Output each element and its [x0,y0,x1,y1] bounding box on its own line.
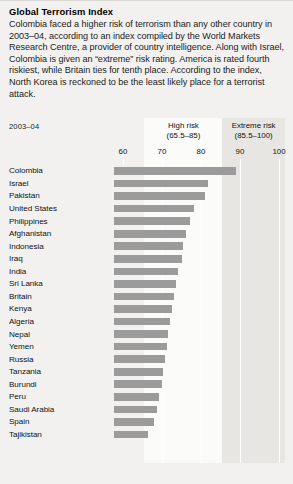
bar [114,230,186,238]
bar-row: Saudi Arabia [0,404,293,417]
bar-row: Indonesia [0,241,293,254]
bar-row: Yemen [0,342,293,355]
x-tick-mark-60 [123,159,124,164]
country-label: Spain [9,417,29,427]
country-label: Russia [9,355,33,365]
x-axis-tick-labels: 60708090100 [0,147,293,159]
bar-row: Colombia [0,166,293,179]
bar-row: Kenya [0,304,293,317]
country-label: Kenya [9,304,32,314]
country-label: Indonesia [9,242,44,252]
bar-row: Tajikistan [0,429,293,442]
country-label: Burundi [9,380,37,390]
bar-row: Burundi [0,379,293,392]
bar [114,293,174,301]
country-label: Algeria [9,317,34,327]
country-label: Pakistan [9,191,40,201]
bar-row: Iraq [0,254,293,267]
x-tick-label-60: 60 [119,147,128,156]
page-title: Global Terrorism Index [9,6,285,18]
country-label: Nepal [9,330,30,340]
bar [114,205,194,213]
bar [114,368,163,376]
bar [114,167,236,175]
bar-row: India [0,266,293,279]
bar-row: Algeria [0,317,293,330]
band-label-range: (85.5–100) [222,131,284,141]
bar-row: Philippines [0,216,293,229]
bar-row: Pakistan [0,191,293,204]
bar-row: Sri Lanka [0,279,293,292]
bar [114,406,157,414]
bar [114,255,182,263]
bar [114,192,205,200]
x-tick-label-90: 90 [236,147,245,156]
bar-row: Britain [0,291,293,304]
bar [114,242,183,250]
country-label: United States [9,204,57,214]
country-label: Afghanistan [9,229,51,239]
bar [114,393,159,401]
bar [114,305,172,313]
country-label: Saudi Arabia [9,405,54,415]
bar-rows: ColombiaIsraelPakistanUnited StatesPhili… [0,166,293,442]
country-label: Britain [9,292,32,302]
bar [114,280,176,288]
description-paragraph: Colombia faced a higher risk of terroris… [9,19,285,100]
chart-plot-area: High risk(65.5–85)Extreme risk(85.5–100)… [0,118,293,463]
x-tick-label-80: 80 [197,147,206,156]
bar-row: Nepal [0,329,293,342]
bar-row: Israel [0,179,293,192]
country-label: Israel [9,179,29,189]
bar-row: Peru [0,392,293,405]
x-tick-label-100: 100 [272,147,285,156]
bar-row: Afghanistan [0,229,293,242]
band-label-title: High risk [168,121,199,130]
bar [114,268,178,276]
country-label: Yemen [9,342,34,352]
band-label-extreme-risk: Extreme risk(85.5–100) [222,121,284,140]
band-label-high-risk: High risk(65.5–85) [144,121,222,140]
bar-row: Spain [0,417,293,430]
bar-row: Russia [0,354,293,367]
country-label: Sri Lanka [9,279,43,289]
band-label-title: Extreme risk [232,121,276,130]
bar [114,330,168,338]
country-label: Philippines [9,217,48,227]
country-label: India [9,267,26,277]
band-label-range: (65.5–85) [144,131,222,141]
country-label: Colombia [9,166,43,176]
bar [114,431,148,439]
country-label: Tajikistan [9,430,42,440]
country-label: Tanzania [9,367,41,377]
bar-row: Tanzania [0,367,293,380]
bar [114,418,154,426]
top-rule [0,0,293,1]
bar [114,180,208,188]
bar [114,343,167,351]
x-tick-label-70: 70 [158,147,167,156]
country-label: Peru [9,392,26,402]
bar-row: United States [0,204,293,217]
chart-page: Global Terrorism Index Colombia faced a … [0,0,293,484]
bar [114,217,190,225]
bar [114,318,170,326]
header-block: Global Terrorism Index Colombia faced a … [9,6,285,100]
bar [114,380,162,388]
country-label: Iraq [9,254,23,264]
bar [114,355,165,363]
